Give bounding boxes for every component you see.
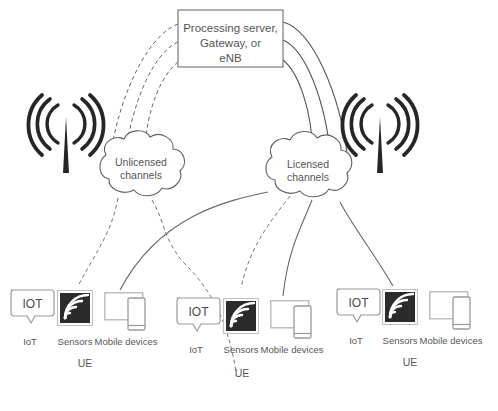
unlicensed-label-line-2: channels xyxy=(120,169,162,181)
licensed-label-line-1: Licensed xyxy=(287,158,329,170)
sensors-device[interactable] xyxy=(58,291,93,326)
antenna-tower-left xyxy=(28,95,103,173)
iot-label: IoT xyxy=(189,344,203,355)
server-line-1: Processing server, xyxy=(183,22,278,34)
iot-label: IoT xyxy=(349,335,363,346)
mobile-device[interactable] xyxy=(105,293,145,330)
diagram-canvas: Processing server, Gateway, or eNB Unlic… xyxy=(0,0,498,411)
antenna-tower-right xyxy=(342,95,417,173)
iot-badge-text: IOT xyxy=(349,296,370,310)
network-diagram: Processing server, Gateway, or eNB Unlic… xyxy=(0,0,498,411)
mobile-device[interactable] xyxy=(271,301,311,338)
processing-server-box: Processing server, Gateway, or eNB xyxy=(178,10,283,67)
ue-group-center[interactable]: IOT IoT Sensors Mobile devices UE xyxy=(177,298,324,379)
sensors-label: Sensors xyxy=(383,335,418,346)
ue-group-label: UE xyxy=(78,357,93,369)
ue-group-right[interactable]: IOT IoT Sensors Mobile devices UE xyxy=(337,289,483,368)
ue-group-left[interactable]: IOT IoT Sensors Mobile devices UE xyxy=(11,290,158,369)
licensed-channels-cloud: Licensed channels xyxy=(266,131,352,196)
sensors-wifi-icon xyxy=(385,292,415,322)
mobile-label: Mobile devices xyxy=(95,336,158,347)
mobile-device[interactable] xyxy=(430,292,470,329)
sensors-wifi-icon xyxy=(60,293,90,323)
sensors-device[interactable] xyxy=(224,299,259,334)
tablet-phone-icon xyxy=(105,293,145,330)
tablet-phone-icon xyxy=(271,301,311,338)
unlicensed-label-line-1: Unlicensed xyxy=(115,156,167,168)
tablet-phone-icon xyxy=(430,292,470,329)
iot-device[interactable]: IOT xyxy=(177,298,220,331)
iot-device[interactable]: IOT xyxy=(337,289,380,322)
iot-device[interactable]: IOT xyxy=(11,290,54,323)
iot-label: IoT xyxy=(23,336,37,347)
mobile-label: Mobile devices xyxy=(261,344,324,355)
links-licensed-dashed-cross xyxy=(241,196,290,288)
unlicensed-channels-cloud: Unlicensed channels xyxy=(100,131,185,196)
sensors-device[interactable] xyxy=(383,290,418,325)
iot-badge-text: IOT xyxy=(189,305,210,319)
server-line-3: eNB xyxy=(219,52,242,64)
sensors-label: Sensors xyxy=(224,344,259,355)
iot-badge-text: IOT xyxy=(23,297,44,311)
sensors-wifi-icon xyxy=(226,301,256,331)
server-line-2: Gateway, or xyxy=(200,37,261,49)
sensors-label: Sensors xyxy=(58,336,93,347)
ue-group-label: UE xyxy=(403,356,418,368)
licensed-label-line-2: channels xyxy=(287,171,329,183)
ue-group-label: UE xyxy=(235,367,250,379)
mobile-label: Mobile devices xyxy=(420,335,483,346)
